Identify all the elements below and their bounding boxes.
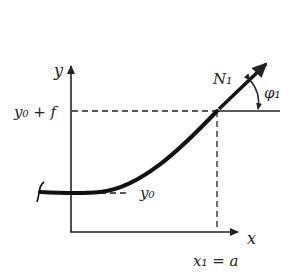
y0-label: y₀ <box>139 184 155 202</box>
x-axis-label: x <box>247 229 256 248</box>
x1-equals-a-label: x₁ = a <box>193 252 239 270</box>
beam-diagram: y x y₀ + f y₀ x₁ = a N₁ φ₁ <box>0 0 294 278</box>
deflection-curve <box>40 111 217 193</box>
angle-phi1-label: φ₁ <box>264 84 281 102</box>
force-n1-label: N₁ <box>212 70 232 88</box>
y-axis-label: y <box>53 61 64 80</box>
angle-phi1-arc <box>250 80 259 109</box>
y0-plus-f-label: y₀ + f <box>13 103 59 121</box>
